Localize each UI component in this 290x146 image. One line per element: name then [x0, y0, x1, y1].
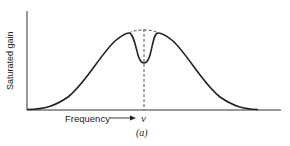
y-axis-label: Saturated gain [5, 18, 19, 104]
arrow-head-icon [130, 116, 136, 121]
x-axis-label: Frequency [65, 113, 110, 124]
frequency-symbol: ν [141, 112, 146, 124]
saturated-gain-curve [27, 33, 258, 110]
unsaturated-gain-dashed [129, 30, 158, 33]
gain-diagram [0, 0, 290, 146]
figure-caption: (a) [136, 127, 148, 138]
